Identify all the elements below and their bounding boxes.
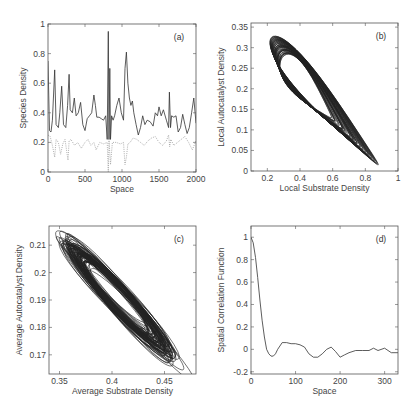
- y-tick-label: 0: [243, 166, 248, 176]
- y-axis-label: Local Autocatalyst Density: [216, 47, 226, 147]
- x-tick-label: 100: [288, 376, 302, 386]
- y-tick-label: 0.35: [231, 22, 248, 32]
- orbit-loop: [276, 47, 351, 137]
- orbit-loop: [78, 255, 190, 376]
- x-tick-label: 0: [46, 174, 51, 184]
- x-axis-label: Average Substrate Density: [72, 386, 174, 396]
- y-axis-label: Average Autocatalyst Density: [14, 244, 24, 355]
- x-tick-label: 0.4: [294, 173, 306, 183]
- figure-canvas: 050010001500200000.20.40.60.81SpaceSpeci…: [0, 0, 420, 418]
- x-tick-label: 0.4: [106, 376, 118, 386]
- x-tick-label: 1000: [113, 174, 132, 184]
- y-tick-label: 0.1: [236, 125, 248, 135]
- x-tick-label: 0.8: [359, 173, 371, 183]
- x-tick-label: 0.2: [261, 173, 273, 183]
- y-tick-label: 0.8: [236, 255, 248, 265]
- orbit-loop: [276, 47, 352, 138]
- panel-d-spatial-correlation: 0100200300-0.200.20.40.60.81SpaceSpatial…: [216, 226, 398, 396]
- y-tick-label: 0.05: [231, 145, 248, 155]
- x-tick-label: 0: [249, 376, 254, 386]
- panel-a-species-density: 050010001500200000.20.40.60.81SpaceSpeci…: [18, 19, 206, 194]
- plot-area: [47, 223, 200, 387]
- x-tick-label: 0.35: [51, 376, 68, 386]
- y-tick-label: 0: [40, 167, 45, 177]
- y-tick-label: 0.18: [29, 322, 46, 332]
- orbit-loop: [278, 51, 339, 125]
- x-tick-label: 0.6: [327, 173, 339, 183]
- plot-area: [251, 237, 398, 357]
- orbit-loop: [277, 49, 347, 133]
- x-tick-label: 1500: [150, 174, 169, 184]
- y-tick-label: 0.21: [29, 240, 46, 250]
- y-tick-label: 0.17: [29, 350, 46, 360]
- y-tick-label: 0.8: [33, 49, 45, 59]
- y-tick-label: 1: [40, 19, 45, 29]
- panel-label: (a): [174, 32, 185, 42]
- plot-area: [48, 31, 196, 172]
- x-tick-label: 500: [78, 174, 92, 184]
- y-tick-label: -0.2: [233, 367, 248, 377]
- x-axis-label: Space: [312, 386, 336, 396]
- series-line-0: [251, 237, 398, 357]
- y-tick-label: 1: [243, 232, 248, 242]
- x-tick-label: 200: [333, 376, 347, 386]
- orbit-loop: [72, 249, 158, 345]
- orbit-loop: [271, 39, 371, 158]
- y-tick-label: 0.2: [236, 322, 248, 332]
- plot-area: [270, 36, 379, 165]
- y-tick-label: 0.25: [231, 63, 248, 73]
- y-tick-label: 0.15: [231, 104, 248, 114]
- orbit-loop: [272, 39, 372, 158]
- panel-c-average-phase-space: 0.350.40.450.170.180.190.20.21Average Su…: [14, 223, 200, 396]
- y-tick-label: 0: [243, 344, 248, 354]
- orbit-loop: [75, 253, 153, 338]
- panel-label: (b): [376, 31, 387, 41]
- y-tick-label: 0.19: [29, 295, 46, 305]
- x-tick-label: 0.45: [156, 376, 173, 386]
- x-tick-label: 300: [378, 376, 392, 386]
- y-tick-label: 0.3: [236, 43, 248, 53]
- orbit-loop: [78, 256, 200, 387]
- y-tick-label: 0.6: [33, 78, 45, 88]
- x-tick-label: 1: [396, 173, 401, 183]
- y-tick-label: 0.6: [236, 277, 248, 287]
- orbit-loop: [274, 43, 361, 147]
- y-tick-label: 0.4: [33, 108, 45, 118]
- panel-label: (d): [376, 234, 387, 244]
- y-axis-label: Species Density: [18, 67, 28, 129]
- orbit-loop: [77, 255, 155, 340]
- y-tick-label: 0.2: [236, 84, 248, 94]
- x-axis-label: Space: [110, 184, 134, 194]
- series-line-0: [48, 31, 196, 139]
- y-tick-label: 0.4: [236, 299, 248, 309]
- y-axis-label: Spatial Correlation Function: [216, 247, 226, 352]
- series-line-1: [48, 135, 196, 172]
- y-tick-label: 0.2: [34, 268, 46, 278]
- x-axis-label: Local Substrate Density: [280, 183, 371, 193]
- y-tick-label: 0.2: [33, 137, 45, 147]
- panel-label: (c): [174, 234, 184, 244]
- panel-b-local-phase-space: 0.20.40.60.8100.050.10.150.20.250.30.35L…: [216, 22, 401, 193]
- x-tick-label: 2000: [187, 174, 206, 184]
